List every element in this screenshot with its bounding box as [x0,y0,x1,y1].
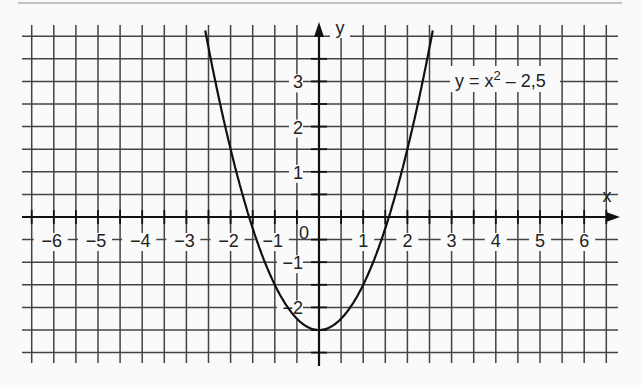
function-label: y = x2 – 2,5 [450,66,560,92]
coordinate-plot: −6−5−4−3−2−1123456321−1−20xy y = x2 – 2,… [0,0,642,387]
svg-text:6: 6 [579,231,589,251]
svg-text:−1: −1 [263,231,284,251]
svg-text:−2: −2 [218,231,239,251]
svg-text:1: 1 [358,231,368,251]
svg-text:2: 2 [402,231,412,251]
svg-text:1: 1 [293,163,303,183]
svg-text:−6: −6 [42,231,63,251]
svg-text:−4: −4 [130,231,151,251]
svg-text:3: 3 [293,72,303,92]
svg-text:x: x [603,186,612,206]
svg-text:4: 4 [491,231,501,251]
svg-text:−5: −5 [86,231,107,251]
svg-text:y: y [336,18,345,38]
svg-text:3: 3 [447,231,457,251]
svg-text:−1: −1 [282,253,303,273]
svg-text:y = x2 – 2,5: y = x2 – 2,5 [455,68,546,91]
svg-text:0: 0 [299,223,309,243]
svg-text:2: 2 [293,118,303,138]
svg-text:5: 5 [535,231,545,251]
svg-text:−3: −3 [174,231,195,251]
